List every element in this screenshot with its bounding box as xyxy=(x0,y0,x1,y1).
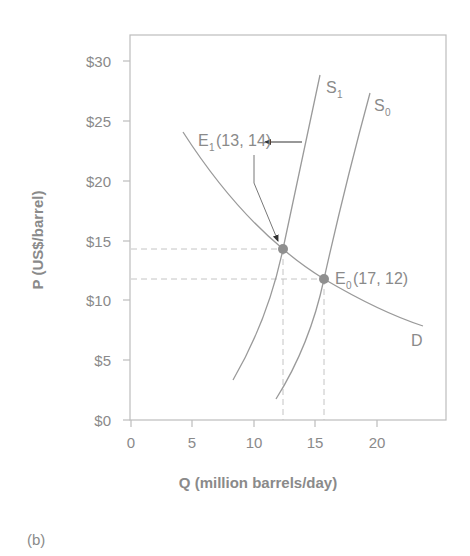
label-e1: E 1 (13, 14) xyxy=(198,132,271,153)
x-tick-label: 20 xyxy=(369,434,386,451)
svg-text:E: E xyxy=(198,132,209,149)
y-tick-label: $20 xyxy=(86,173,111,190)
x-tick-label: 15 xyxy=(307,434,324,451)
label-s0: S 0 xyxy=(374,97,391,118)
svg-text:S: S xyxy=(326,79,337,96)
y-axis xyxy=(123,61,130,420)
svg-text:(17, 12): (17, 12) xyxy=(353,270,408,287)
y-tick-labels: $30 $25 $20 $15 $10 $5 $0 xyxy=(86,53,111,429)
x-axis-title: Q (million barrels/day) xyxy=(179,474,337,491)
y-tick-label: $10 xyxy=(86,292,111,309)
label-d: D xyxy=(411,332,423,349)
y-tick-label: $30 xyxy=(86,53,111,70)
y-tick-label: $25 xyxy=(86,113,111,130)
svg-text:1: 1 xyxy=(209,142,215,153)
y-axis-title: P (US$/barrel) xyxy=(29,191,46,290)
dashed-guides xyxy=(131,249,324,420)
svg-text:1: 1 xyxy=(337,89,343,100)
demand-curve xyxy=(183,132,423,326)
panel-label: (b) xyxy=(27,531,45,548)
x-tick-labels: 0 5 10 15 20 xyxy=(127,434,386,451)
supply-curve-s0 xyxy=(276,93,370,399)
supply-demand-chart: $30 $25 $20 $15 $10 $5 $0 0 5 10 15 20 Q… xyxy=(0,0,470,556)
x-axis xyxy=(131,420,377,427)
label-e0: E 0 (17, 12) xyxy=(335,270,408,291)
x-tick-label: 0 xyxy=(127,434,135,451)
svg-text:S: S xyxy=(374,97,385,114)
svg-text:E: E xyxy=(335,270,346,287)
x-tick-label: 10 xyxy=(246,434,263,451)
x-tick-label: 5 xyxy=(188,434,196,451)
equilibrium-point-e0 xyxy=(319,274,329,284)
svg-text:0: 0 xyxy=(346,280,352,291)
equilibrium-point-e1 xyxy=(278,244,288,254)
y-tick-label: $0 xyxy=(94,412,111,429)
supply-curve-s1 xyxy=(233,75,320,380)
y-tick-label: $5 xyxy=(94,352,111,369)
svg-text:0: 0 xyxy=(385,107,391,118)
e1-leader-arrow xyxy=(254,155,278,241)
svg-text:(13, 14): (13, 14) xyxy=(216,132,271,149)
label-s1: S 1 xyxy=(326,79,343,100)
y-tick-label: $15 xyxy=(86,233,111,250)
